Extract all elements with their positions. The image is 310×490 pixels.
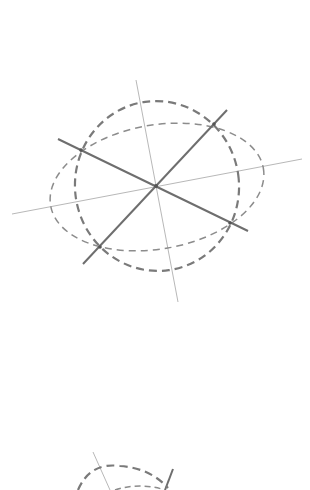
center-point xyxy=(154,184,158,188)
intersection-point xyxy=(228,221,232,225)
intersection-point xyxy=(79,148,83,152)
figure-partial-bottom xyxy=(78,452,173,490)
intersection-point xyxy=(212,122,216,126)
diameter-line-a xyxy=(58,139,248,231)
geometry-diagram xyxy=(0,0,310,490)
partial-axis-line xyxy=(93,452,110,490)
partial-dashed-ellipse-arc xyxy=(115,486,165,490)
partial-dashed-circle-arc xyxy=(78,466,168,490)
intersection-point xyxy=(98,245,102,249)
figure-ellipse-conjugate-diameters xyxy=(12,80,302,302)
